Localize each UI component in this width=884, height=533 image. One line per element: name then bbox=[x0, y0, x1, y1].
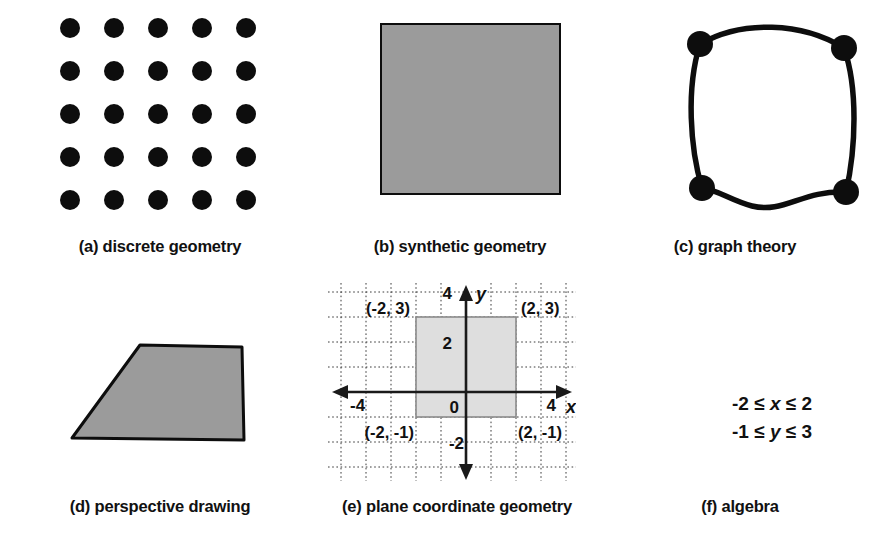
annotation-2-neg1: (2, -1) bbox=[518, 423, 562, 441]
lattice-dot bbox=[236, 190, 256, 210]
caption-algebra: (f) algebra bbox=[600, 497, 880, 516]
lattice-dot bbox=[148, 190, 168, 210]
lattice-dot bbox=[192, 190, 212, 210]
lattice-dot bbox=[104, 190, 124, 210]
graph-vertices bbox=[687, 31, 859, 205]
inequality-x-suffix: ≤ 2 bbox=[780, 393, 812, 414]
inequality-y-suffix: ≤ 3 bbox=[780, 421, 812, 442]
lattice-dot bbox=[104, 147, 124, 167]
lattice-dot bbox=[148, 61, 168, 81]
caption-discrete-geometry: (a) discrete geometry bbox=[0, 237, 320, 256]
lattice-dot bbox=[236, 18, 256, 38]
lattice-dot bbox=[148, 104, 168, 124]
lattice-dot bbox=[60, 147, 80, 167]
caption-plane-coordinate-geometry: (e) plane coordinate geometry bbox=[292, 497, 622, 516]
inequality-y-variable: y bbox=[770, 421, 781, 442]
annotation-neg2-3: (-2, 3) bbox=[366, 299, 410, 317]
coordinate-plane-chart: 4 2 0 -2 -4 4 y x (-2, 3) (2, 3) (-2, -1… bbox=[328, 283, 576, 481]
panel-perspective-drawing bbox=[60, 335, 260, 450]
lattice-dot bbox=[60, 61, 80, 81]
caption-synthetic-geometry: (b) synthetic geometry bbox=[300, 237, 620, 256]
x-axis-label: x bbox=[565, 397, 576, 417]
lattice-dot bbox=[104, 61, 124, 81]
inequality-y-prefix: -1 ≤ bbox=[732, 421, 770, 442]
graph-vertex-top-left bbox=[687, 31, 713, 57]
inequality-x-variable: x bbox=[770, 393, 781, 414]
filled-square-shape bbox=[380, 23, 561, 195]
lattice-dot bbox=[60, 104, 80, 124]
trapezoid-diagram bbox=[60, 335, 260, 450]
inequality-y: -1 ≤ y ≤ 3 bbox=[672, 418, 872, 446]
inequality-x: -2 ≤ x ≤ 2 bbox=[672, 390, 872, 418]
panel-graph-theory bbox=[672, 18, 872, 214]
annotation-neg2-neg1: (-2, -1) bbox=[365, 423, 415, 441]
panel-plane-coordinate-geometry: 4 2 0 -2 -4 4 y x (-2, 3) (2, 3) (-2, -1… bbox=[328, 283, 576, 481]
lattice-dot bbox=[236, 147, 256, 167]
lattice-dot bbox=[60, 190, 80, 210]
graph-diagram bbox=[672, 18, 872, 214]
lattice-dot bbox=[60, 18, 80, 38]
x-tick-label-neg4: -4 bbox=[350, 396, 366, 415]
lattice-dot bbox=[236, 104, 256, 124]
graph-edge-left bbox=[691, 44, 702, 188]
panel-algebra: -2 ≤ x ≤ 2 -1 ≤ y ≤ 3 bbox=[672, 390, 872, 450]
graph-vertex-bottom-left bbox=[689, 175, 715, 201]
y-tick-label-0: 0 bbox=[450, 398, 459, 417]
lattice-dot bbox=[236, 61, 256, 81]
y-tick-label-2: 2 bbox=[443, 334, 452, 353]
graph-vertex-bottom-right bbox=[833, 179, 859, 205]
lattice-dot bbox=[192, 147, 212, 167]
x-axis-left-arrow bbox=[332, 385, 348, 399]
trapezoid-shape bbox=[72, 345, 244, 440]
y-tick-label-neg2: -2 bbox=[449, 434, 464, 453]
graph-vertex-top-right bbox=[831, 35, 857, 61]
y-tick-label-4: 4 bbox=[443, 284, 453, 303]
lattice-dot bbox=[192, 18, 212, 38]
lattice-dot bbox=[104, 18, 124, 38]
caption-graph-theory: (c) graph theory bbox=[590, 237, 880, 256]
graph-edge-right bbox=[844, 48, 854, 192]
lattice-dot bbox=[192, 104, 212, 124]
graph-edge-top bbox=[700, 27, 844, 48]
y-axis-down-arrow bbox=[459, 464, 473, 480]
lattice-dot bbox=[192, 61, 212, 81]
annotation-2-3: (2, 3) bbox=[521, 299, 560, 317]
caption-perspective-drawing: (d) perspective drawing bbox=[0, 497, 320, 516]
lattice-dot bbox=[148, 147, 168, 167]
lattice-dot bbox=[104, 104, 124, 124]
math-representations-figure: (a) discrete geometry (b) synthetic geom… bbox=[0, 0, 884, 533]
graph-edge-bottom bbox=[702, 188, 846, 208]
lattice-dot bbox=[148, 18, 168, 38]
inequality-x-prefix: -2 ≤ bbox=[732, 393, 770, 414]
y-axis-up-arrow bbox=[459, 285, 473, 301]
x-tick-label-4: 4 bbox=[547, 396, 557, 415]
panel-discrete-geometry bbox=[60, 18, 260, 213]
y-axis-label: y bbox=[475, 284, 487, 304]
panel-synthetic-geometry bbox=[380, 23, 561, 195]
